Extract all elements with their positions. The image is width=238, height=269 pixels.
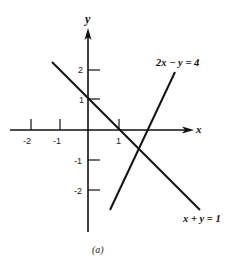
equation-label-2x-minus-y: 2x − y = 4 [155, 57, 199, 68]
y-tick-label: 1 [79, 95, 84, 105]
x-tick-label: -2 [23, 136, 31, 146]
x-tick-label: -1 [53, 136, 61, 146]
y-tick-label: 2 [78, 65, 83, 75]
figure-caption: (a) [92, 244, 104, 256]
graph-figure: y x -2 -1 1 2 1 -1 -2 2x − y = 4 x + y =… [0, 0, 238, 269]
y-tick-label: -1 [74, 156, 82, 166]
equation-label-x-plus-y: x + y = 1 [182, 213, 221, 224]
y-tick-label: -2 [74, 186, 82, 196]
y-axis-label: y [83, 12, 91, 26]
x-axis-label: x [195, 123, 202, 135]
x-tick-label: 1 [116, 136, 121, 146]
